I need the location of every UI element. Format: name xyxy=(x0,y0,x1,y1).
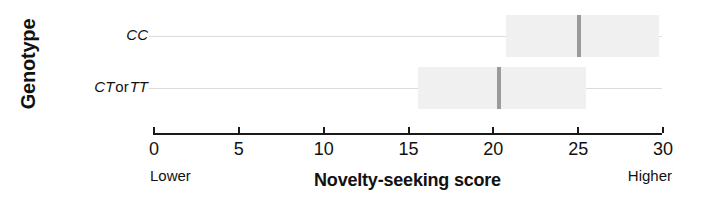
x-tick-label-5: 5 xyxy=(219,139,259,160)
row-label-ctt-conjunction: or xyxy=(114,78,129,95)
row-label-cc-gene-a: CC xyxy=(126,26,148,43)
row-label-ctt-gene-a: CT xyxy=(94,78,114,95)
row-label-ct-or-tt: CTorTT xyxy=(28,78,148,95)
x-tick-30 xyxy=(662,127,664,133)
x-tick-label-0: 0 xyxy=(134,139,174,160)
x-axis-high-label: Higher xyxy=(612,167,672,184)
x-tick-label-25: 25 xyxy=(558,139,598,160)
y-axis-title: Genotype xyxy=(0,0,98,134)
confidence-band-ct-or-tt xyxy=(418,67,586,109)
x-axis-line xyxy=(153,133,662,135)
x-tick-label-10: 10 xyxy=(304,139,344,160)
x-tick-5 xyxy=(238,127,240,133)
point-marker-cc xyxy=(577,15,581,57)
x-tick-20 xyxy=(492,127,494,133)
row-label-ctt-gene-b: TT xyxy=(130,78,148,95)
novelty-seeking-score-chart: Genotype CC CTorTT 051015202530 Lower No… xyxy=(0,0,702,203)
row-label-cc: CC xyxy=(28,26,148,43)
x-tick-10 xyxy=(323,127,325,133)
x-tick-0 xyxy=(153,127,155,133)
x-tick-15 xyxy=(408,127,410,133)
x-axis-title: Novelty-seeking score xyxy=(153,170,662,191)
point-marker-ct-or-tt xyxy=(497,67,501,109)
x-tick-label-30: 30 xyxy=(643,139,683,160)
x-tick-label-15: 15 xyxy=(389,139,429,160)
plot-area xyxy=(153,0,662,135)
x-tick-label-20: 20 xyxy=(473,139,513,160)
confidence-band-cc xyxy=(506,15,659,57)
x-tick-25 xyxy=(577,127,579,133)
